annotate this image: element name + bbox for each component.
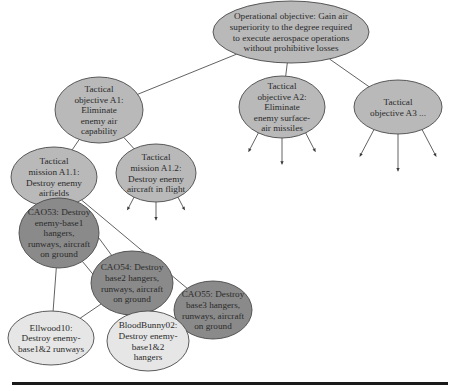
node-label-line: hangers [134, 352, 163, 362]
node-label-line: Tactical [268, 81, 297, 91]
node-label-line: runways, aircraft [182, 311, 245, 321]
node-label-line: airfields [39, 188, 70, 198]
node-label-line: enemy-base1 [35, 218, 84, 228]
node-label-line: Destroy enemy- [22, 333, 81, 343]
node-label-line: base1&2 [132, 342, 165, 352]
node-label-line: mission A1.2: [130, 163, 181, 173]
open-branch-arrow [177, 196, 184, 210]
node-label-line: superiority to the degree required [230, 22, 353, 32]
mission-hierarchy-diagram: Operational objective: Gain airsuperiori… [0, 0, 457, 391]
nodes-layer: Operational objective: Gain airsuperiori… [8, 1, 442, 371]
node-label-line: aircraft in flight [127, 184, 186, 194]
node-bloodbunny02: BloodBunny02:Destroy enemy-base1&2hanger… [107, 311, 189, 371]
node-label-line: enemy air [81, 116, 117, 126]
open-branch-arrow [154, 201, 157, 220]
node-label-line: objective A3 ... [370, 108, 426, 118]
node-cao54: CAO54: Destroybase2 hangers,runways, air… [91, 251, 173, 315]
node-label-line: Destroy enemy [128, 174, 184, 184]
node-label-line: Tactical [40, 156, 69, 166]
node-label-line: objective A1: [74, 95, 123, 105]
node-label-line: Tactical [142, 152, 171, 162]
open-branch-arrow [422, 129, 437, 157]
node-label-line: Destroy enemy- [119, 331, 178, 341]
edge-tactical-objective-a1-to-tactical-mission-a1-1 [72, 140, 79, 150]
node-label-line: objective A2: [257, 92, 306, 102]
node-label-line: on ground [40, 249, 78, 259]
node-label-line: runways, aircraft [101, 284, 164, 294]
edge-cao54-to-ellwood10 [80, 304, 101, 318]
node-label-line: Eliminate [81, 105, 117, 115]
node-label-line: enemy surface- [254, 113, 310, 123]
node-label-line: air missiles [261, 123, 303, 133]
arrow-shaft [305, 132, 315, 152]
open-branch-arrow [127, 196, 134, 210]
node-label-line: BloodBunny02: [119, 320, 178, 330]
node-label-line: Operational objective: Gain air [234, 11, 348, 21]
node-label-line: CAO55: Destroy [182, 289, 245, 299]
node-tactical-objective-a1: Tacticalobjective A1:Eliminateenemy airc… [55, 77, 143, 143]
arrowhead-icon [154, 217, 157, 220]
open-branch-arrow [360, 129, 375, 157]
arrow-shaft [249, 132, 259, 152]
node-label-line: without prohibitive losses [244, 43, 339, 53]
edge-operational-objective-to-tactical-objective-a3 [330, 59, 370, 87]
node-label-line: on ground [194, 321, 232, 331]
node-label-line: Eliminate [264, 102, 300, 112]
bottom-rule [12, 382, 448, 385]
node-cao53: CAO53: Destroyenemy-base1hangers,runways… [19, 198, 99, 268]
open-branch-arrow [280, 137, 283, 164]
node-tactical-objective-a3: Tacticalobjective A3 ... [354, 80, 442, 134]
node-label-line: runways, aircraft [28, 239, 91, 249]
node-label-line: capability [81, 126, 118, 136]
edge-operational-objective-to-tactical-objective-a2 [286, 63, 288, 76]
node-label-line: base2 hangers, [105, 273, 159, 283]
arrowhead-icon [396, 168, 399, 171]
node-label-line: base3 hangers, [186, 300, 240, 310]
node-label-line: CAO53: Destroy [28, 207, 91, 217]
node-tactical-mission-a1-2: Tacticalmission A1.2:Destroy enemyaircra… [116, 144, 196, 202]
arrow-shaft [422, 129, 437, 157]
node-label-line: Tactical [85, 84, 114, 94]
edge-tactical-objective-a1-to-tactical-mission-a1-2 [124, 137, 134, 149]
node-label-line: Ellwood10: [30, 323, 73, 333]
node-label-line: on ground [113, 294, 151, 304]
open-branch-arrow [396, 134, 399, 172]
arrowhead-icon [280, 161, 283, 164]
node-label-line: mission A1.1: [28, 167, 79, 177]
node-label-line: Destroy enemy [26, 178, 82, 188]
node-tactical-objective-a2: Tacticalobjective A2:Eliminateenemy surf… [239, 76, 325, 138]
node-label-line: base1&2 runways [18, 344, 85, 354]
open-branch-arrow [305, 132, 316, 152]
node-label-line: to execute aerospace operations [233, 33, 350, 43]
node-operational-objective: Operational objective: Gain airsuperiori… [213, 1, 369, 63]
open-branch-arrow [249, 132, 260, 152]
node-label-line: CAO54: Destroy [101, 262, 164, 272]
arrow-shaft [360, 129, 375, 157]
node-ellwood10: Ellwood10:Destroy enemy-base1&2 runways [8, 311, 94, 365]
node-label-line: hangers, [44, 228, 75, 238]
node-label-line: Tactical [384, 97, 413, 107]
edge-operational-objective-to-tactical-objective-a1 [138, 54, 237, 94]
edge-cao53-to-ellwood10 [53, 268, 56, 311]
